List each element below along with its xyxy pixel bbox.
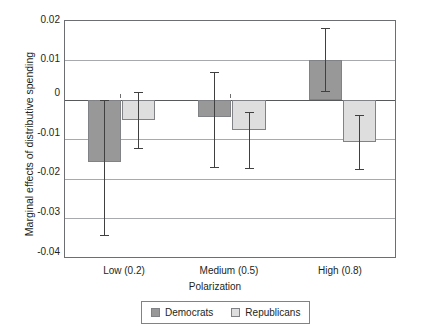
- errorbar-democrats-low: [104, 100, 105, 235]
- y-tick-label: 0: [16, 88, 60, 98]
- y-tick-label: -0.01: [16, 128, 60, 138]
- x-tick-label-low: Low (0.2): [79, 265, 169, 276]
- legend-label-democrats: Democrats: [165, 307, 213, 318]
- plot-area: [64, 20, 396, 258]
- x-axis-tick: [230, 94, 231, 98]
- y-tick-label: 0.02: [16, 15, 60, 25]
- errorbar-cap: [134, 92, 143, 93]
- chart-figure: Marginal effects of distributive spendin…: [0, 0, 430, 332]
- legend-swatch-republicans-icon: [231, 308, 240, 317]
- y-tick-label: -0.02: [16, 167, 60, 177]
- x-axis-tick: [120, 94, 121, 98]
- errorbar-cap: [245, 112, 254, 113]
- errorbar-republicans-medium: [249, 112, 250, 169]
- chart-legend: Democrats Republicans: [141, 301, 310, 324]
- x-tick-label-medium: Medium (0.5): [184, 265, 274, 276]
- errorbar-cap: [355, 115, 364, 116]
- gridline: [65, 218, 395, 219]
- legend-item-republicans: Republicans: [231, 307, 300, 318]
- errorbar-cap: [245, 168, 254, 169]
- x-tick-label-high: High (0.8): [295, 265, 385, 276]
- y-tick-label: 0.01: [16, 54, 60, 64]
- errorbar-cap: [100, 235, 109, 236]
- errorbar-cap: [100, 100, 109, 101]
- errorbar-republicans-low: [138, 92, 139, 149]
- errorbar-cap: [321, 28, 330, 29]
- y-tick-label: -0.03: [16, 207, 60, 217]
- gridline: [65, 60, 395, 61]
- errorbar-cap: [321, 91, 330, 92]
- legend-item-democrats: Democrats: [151, 307, 213, 318]
- errorbar-democrats-high: [325, 28, 326, 92]
- errorbar-cap: [134, 148, 143, 149]
- legend-swatch-democrats-icon: [151, 308, 160, 317]
- legend-label-republicans: Republicans: [245, 307, 300, 318]
- y-tick-label: -0.04: [16, 247, 60, 257]
- errorbar-cap: [355, 169, 364, 170]
- errorbar-cap: [210, 72, 219, 73]
- errorbar-democrats-medium: [214, 72, 215, 168]
- errorbar-republicans-high: [359, 115, 360, 170]
- x-axis-title: Polarization: [0, 281, 430, 292]
- errorbar-cap: [210, 167, 219, 168]
- gridline: [65, 179, 395, 180]
